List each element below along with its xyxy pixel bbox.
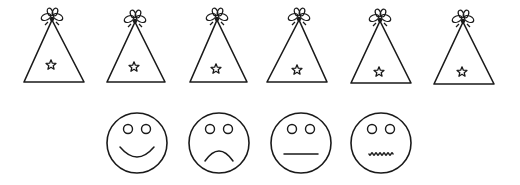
right-eye xyxy=(306,125,315,134)
queasy-face-icon xyxy=(351,113,411,173)
mouth-smile xyxy=(120,147,154,157)
right-eye xyxy=(386,125,395,134)
happy-face-icon xyxy=(107,113,167,173)
right-eye xyxy=(224,125,233,134)
face-outline xyxy=(351,113,411,173)
left-eye xyxy=(206,125,215,134)
face-outline xyxy=(107,113,167,173)
face-outline xyxy=(189,113,249,173)
left-eye xyxy=(124,125,133,134)
emotion-faces-row xyxy=(0,0,520,185)
mouth-frown xyxy=(205,151,233,161)
face-outline xyxy=(271,113,331,173)
right-eye xyxy=(142,125,151,134)
left-eye xyxy=(368,125,377,134)
sad-face-icon xyxy=(189,113,249,173)
mouth-wavy xyxy=(369,153,393,156)
illustration-canvas xyxy=(0,0,520,185)
left-eye xyxy=(288,125,297,134)
neutral-face-icon xyxy=(271,113,331,173)
